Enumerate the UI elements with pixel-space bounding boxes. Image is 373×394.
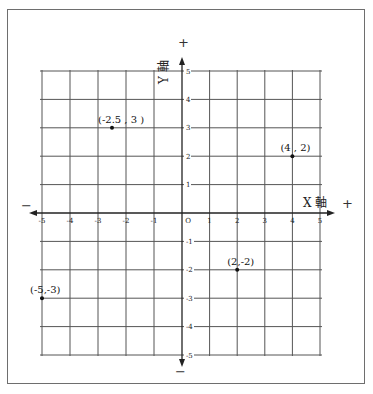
x-negative-sign: − [21,198,32,213]
x-tick-label: 2 [235,217,239,225]
x-axis-right-arrow-icon [327,210,335,216]
y-tick-label: 3 [186,124,190,132]
y-axis-up-arrow-icon [179,57,185,65]
x-tick-label: -3 [95,217,102,225]
data-points: (-2.5 , 3 )(4 , 2)(2,-2)(-5,-3) [30,114,311,300]
point-label: (-5,-3) [30,284,61,295]
point-label: (-2.5 , 3 ) [98,114,144,125]
x-positive-sign: + [342,196,353,211]
axes [29,57,335,367]
data-point [235,268,239,272]
y-tick-label: -1 [186,238,193,246]
x-tick-label: -4 [67,217,74,225]
x-tick-labels: -5-4-3-2-1O12345 [39,217,323,225]
y-tick-label: -2 [186,266,193,274]
y-tick-label: 5 [186,68,190,76]
x-tick-label: 3 [263,217,267,225]
point-label: (2,-2) [227,256,254,267]
y-tick-label: 2 [186,153,190,161]
y-negative-sign: − [175,364,186,379]
x-tick-label: -2 [123,217,130,225]
point-label: (4 , 2) [280,142,310,153]
y-tick-label: -5 [186,352,193,360]
y-axis-label: Y 軸 [157,60,171,85]
coordinate-plane: -5-4-3-2-1O12345 54321-1-2-3-4-5 (-2.5 ,… [0,0,373,394]
x-tick-label: 1 [207,217,211,225]
y-tick-label: 1 [186,181,190,189]
y-tick-label: 4 [186,96,191,104]
y-tick-label: -3 [186,295,193,303]
x-tick-label: 4 [290,217,295,225]
x-tick-label: O [185,217,191,225]
data-point [110,126,114,130]
x-axis-label: X 軸 [303,196,327,210]
y-tick-label: -4 [186,323,193,331]
x-tick-label: -5 [39,217,46,225]
data-point [40,296,44,300]
data-point [290,154,294,158]
y-positive-sign: + [178,35,189,50]
x-tick-label: 5 [318,217,322,225]
x-tick-label: -1 [151,217,158,225]
